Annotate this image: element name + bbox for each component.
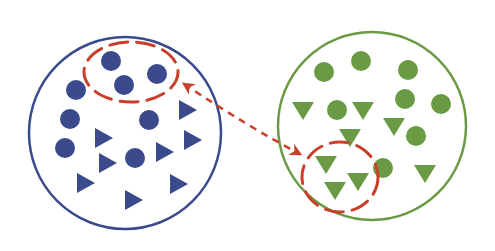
circle-marker (406, 126, 426, 146)
triangle-marker (414, 165, 436, 183)
triangle-marker (324, 182, 346, 200)
circle-marker (101, 51, 121, 71)
triangle-marker (292, 102, 314, 120)
circle-marker (66, 80, 86, 100)
triangle-marker (383, 118, 405, 136)
triangle-marker (179, 100, 197, 120)
circle-marker (351, 51, 371, 71)
triangle-marker (347, 173, 369, 191)
circle-marker (139, 110, 159, 130)
triangle-marker (99, 153, 117, 173)
triangle-marker (95, 128, 113, 148)
triangle-marker (156, 142, 174, 162)
circle-marker (55, 138, 75, 158)
triangle-marker (77, 173, 95, 193)
circle-marker (327, 100, 347, 120)
circle-marker (398, 60, 418, 80)
triangle-marker (170, 174, 188, 194)
circle-marker (314, 62, 334, 82)
triangle-marker (352, 102, 374, 120)
circle-marker (431, 94, 451, 114)
triangle-marker (315, 156, 337, 174)
circle-marker (147, 64, 167, 84)
diagram-canvas (0, 0, 495, 251)
green-selection-dashed-ellipse (302, 142, 378, 212)
triangle-marker (339, 129, 361, 147)
circle-marker (60, 109, 80, 129)
circle-marker (125, 148, 145, 168)
triangle-marker (184, 130, 202, 150)
triangle-marker (125, 190, 143, 210)
circle-marker (114, 75, 134, 95)
circle-marker (395, 89, 415, 109)
diagram-svg (0, 0, 495, 251)
